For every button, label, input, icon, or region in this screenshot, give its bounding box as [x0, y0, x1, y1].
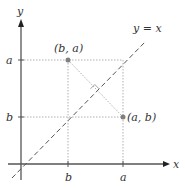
y-tick-label-a: a [6, 54, 13, 67]
y-tick-label-b: b [6, 111, 13, 124]
line-y-equals-x [12, 41, 146, 178]
point-a-b [121, 115, 126, 120]
x-axis-label: x [173, 158, 180, 171]
line-label: y = x [132, 22, 162, 35]
right-angle-marker [91, 85, 100, 89]
connector-segment [68, 60, 123, 117]
point-b-a [66, 58, 71, 63]
y-axis-arrow-icon [18, 19, 24, 27]
x-tick-label-a: a [120, 171, 127, 184]
x-axis-arrow-icon [163, 161, 170, 167]
guide-lines [21, 60, 123, 164]
point-label-b-a: (b, a) [54, 42, 83, 55]
reflection-diagram: x y b a a b y = x (b, a) (a, b) [0, 0, 185, 188]
point-label-a-b: (a, b) [127, 111, 156, 124]
x-tick-label-b: b [65, 171, 72, 184]
y-axis-label: y [16, 5, 24, 18]
